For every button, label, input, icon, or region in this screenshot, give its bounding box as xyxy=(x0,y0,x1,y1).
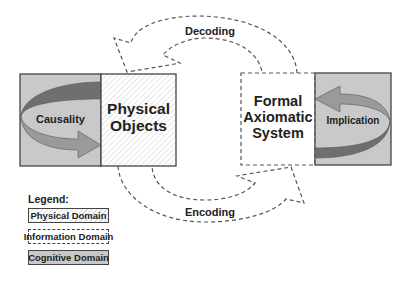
physical-objects-label: Physical Objects xyxy=(101,100,176,134)
legend-cognitive-domain: Cognitive Domain xyxy=(28,250,109,265)
implication-label: Implication xyxy=(316,115,390,126)
legend-physical-domain-label: Physical Domain xyxy=(30,210,106,221)
legend: Legend: xyxy=(28,194,69,206)
decoding-label: Decoding xyxy=(180,25,240,37)
physical-objects-line1: Physical xyxy=(101,100,176,117)
physical-objects-line2: Objects xyxy=(101,117,176,134)
causality-label: Causality xyxy=(22,113,99,125)
formal-system-line1: Formal xyxy=(239,94,317,110)
formal-system-line2: Axiomatic xyxy=(239,110,317,126)
legend-title: Legend: xyxy=(28,194,69,206)
encoding-label: Encoding xyxy=(180,206,240,218)
legend-physical-domain: Physical Domain xyxy=(28,208,109,223)
formal-system-label: Formal Axiomatic System xyxy=(239,94,317,142)
legend-information-domain-label: Information Domain xyxy=(24,231,114,242)
legend-information-domain: Information Domain xyxy=(28,229,109,244)
formal-system-line3: System xyxy=(239,126,317,142)
legend-cognitive-domain-label: Cognitive Domain xyxy=(28,252,109,263)
